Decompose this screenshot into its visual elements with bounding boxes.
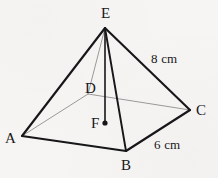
vertex-label-D: D: [85, 81, 96, 96]
center-point-dot: [102, 120, 107, 125]
vertex-label-F: F: [91, 116, 99, 131]
hidden-edge-group: [22, 28, 190, 136]
dimension-label-slant-edge: 8 cm: [151, 52, 177, 65]
edge-AB: [22, 136, 126, 151]
pyramid-drawing: [0, 0, 218, 178]
vertex-label-C: C: [196, 103, 206, 118]
vertex-label-B: B: [121, 158, 131, 173]
vertex-label-A: A: [5, 131, 16, 146]
visible-edge-group: [22, 28, 190, 151]
vertex-label-E: E: [101, 6, 110, 21]
center-dot-icon: [102, 120, 107, 125]
pyramid-figure: E A B C D F 8 cm 6 cm: [0, 0, 218, 178]
edge-AD: [22, 94, 88, 136]
dimension-label-base-edge: 6 cm: [154, 138, 180, 151]
